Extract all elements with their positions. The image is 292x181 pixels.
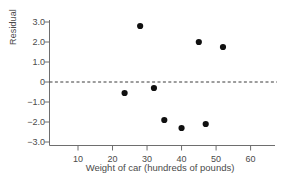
- data-points-group: [122, 23, 227, 131]
- axes-group: [50, 20, 276, 146]
- data-point: [137, 23, 143, 29]
- data-point: [203, 121, 209, 127]
- data-point: [122, 90, 128, 96]
- x-axis-title: Weight of car (hundreds of pounds): [0, 162, 292, 173]
- y-axis-tick-marks: [45, 22, 50, 142]
- data-point: [161, 117, 167, 123]
- data-point: [178, 125, 184, 131]
- data-point: [196, 39, 202, 45]
- data-point: [151, 85, 157, 91]
- data-point: [220, 44, 226, 50]
- residual-scatter-plot: Residual 3.02.01.00−1.0−2.0−3.0 10203040…: [0, 0, 292, 181]
